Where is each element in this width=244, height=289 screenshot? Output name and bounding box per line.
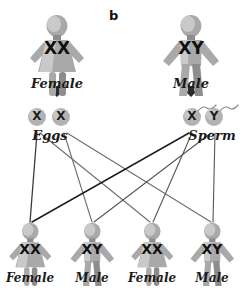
sperm-x-allele: X (182, 109, 202, 123)
offspring-male-2-genotype: XY (90, 241, 244, 257)
male-parent-genotype: XY (69, 38, 244, 58)
line-sperm-x-to-offspring1 (32, 133, 189, 222)
line-egg1-to-offspring1 (30, 133, 37, 222)
line-sperm-x-to-offspring3 (153, 133, 192, 222)
egg-x-1-allele: X (27, 109, 47, 123)
sperm-label: Sperm (90, 128, 244, 143)
male-parent-label: Male (69, 76, 244, 91)
line-egg2-to-offspring4 (67, 133, 211, 222)
sperm-y-allele: Y (204, 109, 224, 123)
egg-x-2-allele: X (51, 109, 71, 123)
offspring-male-2-label: Male (90, 271, 244, 285)
line-sperm-y-to-offspring4 (213, 133, 215, 222)
sex-determination-diagram: XXFemaleXYMaleXXFemaleXYMaleXXFemaleXYMa… (0, 0, 244, 289)
panel-label: b (109, 8, 118, 23)
